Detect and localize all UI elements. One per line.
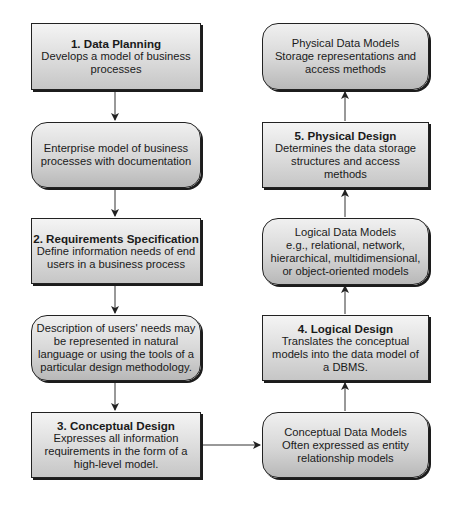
node-text: or object-oriented models	[282, 265, 408, 278]
node-text: access methods	[305, 63, 386, 76]
node-text: Define information needs of end	[37, 245, 196, 258]
node-data-planning: 1. Data Planning Develops a model of bus…	[31, 23, 201, 90]
node-text: Often expressed as entity	[282, 439, 409, 452]
node-text: methods	[324, 168, 367, 181]
node-text: Physical Data Models	[292, 37, 400, 50]
node-text: a DBMS.	[323, 361, 368, 374]
node-title: 3. Conceptual Design	[57, 419, 175, 432]
node-text: Conceptual Data Models	[284, 426, 407, 439]
node-text: particular design methodology.	[40, 361, 192, 374]
node-enterprise-model: Enterprise model of business processes w…	[31, 122, 201, 188]
node-text: Storage representations and	[275, 50, 416, 63]
node-text: requirements in the form of a	[44, 445, 187, 458]
node-text: Logical Data Models	[295, 226, 396, 239]
node-text: high-level model.	[74, 458, 159, 471]
node-text: language or using the tools of a	[38, 348, 194, 361]
node-text: Determines the data storage	[275, 142, 416, 155]
node-physical-design: 5. Physical Design Determines the data s…	[262, 122, 429, 188]
node-text: Expresses all information	[54, 432, 179, 445]
node-logical-design: 4. Logical Design Translates the concept…	[262, 315, 429, 381]
node-text: Develops a model of business	[41, 50, 190, 63]
node-text: models into the data model of	[272, 348, 419, 361]
node-requirements-specification: 2. Requirements Specification Define inf…	[31, 218, 201, 284]
node-physical-data-models: Physical Data Models Storage representat…	[262, 23, 429, 90]
node-text: e.g., relational, network,	[286, 239, 405, 252]
node-text: processes with documentation	[41, 155, 192, 168]
node-text: Enterprise model of business	[44, 142, 188, 155]
node-text: Translates the conceptual	[282, 335, 410, 348]
node-text: structures and access	[291, 155, 400, 168]
node-conceptual-data-models: Conceptual Data Models Often expressed a…	[262, 412, 429, 478]
node-title: 2. Requirements Specification	[33, 232, 199, 245]
node-conceptual-design: 3. Conceptual Design Expresses all infor…	[31, 412, 201, 478]
node-text: Description of users' needs may	[37, 322, 196, 335]
node-title: 1. Data Planning	[71, 37, 161, 50]
node-text: hierarchical, multidimensional,	[271, 252, 421, 265]
node-title: 5. Physical Design	[295, 129, 397, 142]
node-text: processes	[91, 63, 142, 76]
node-text: users in a business process	[47, 258, 185, 271]
node-text: be represented in natural	[54, 335, 178, 348]
node-title: 4. Logical Design	[298, 322, 393, 335]
node-text: relationship models	[297, 452, 393, 465]
node-logical-data-models: Logical Data Models e.g., relational, ne…	[262, 218, 429, 285]
node-users-needs-description: Description of users' needs may be repre…	[31, 315, 201, 381]
